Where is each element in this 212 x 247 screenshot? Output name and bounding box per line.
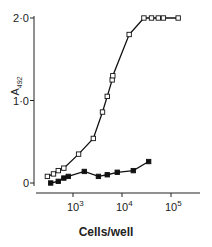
open-square-marker bbox=[105, 94, 109, 98]
y-tick-label: 0 bbox=[23, 177, 29, 189]
open-square-marker bbox=[62, 166, 66, 170]
open-square-marker bbox=[91, 136, 95, 140]
filled-square-marker bbox=[82, 169, 86, 173]
open-square-marker bbox=[142, 16, 146, 20]
y-axis-title: A492 bbox=[9, 76, 23, 95]
chart: 01·02·0103104105Cells/wellA492 bbox=[0, 0, 212, 247]
x-tick-label: 104 bbox=[116, 199, 133, 213]
filled-square-marker bbox=[48, 181, 52, 185]
filled-square-marker bbox=[105, 173, 109, 177]
filled-square-marker bbox=[56, 179, 60, 183]
y-tick-label: 2·0 bbox=[13, 12, 29, 24]
open-square-marker bbox=[149, 16, 153, 20]
x-tick-label: 105 bbox=[165, 199, 182, 213]
open-square-marker bbox=[127, 32, 131, 36]
open-square-marker bbox=[51, 172, 55, 176]
filled-square-marker bbox=[62, 176, 66, 180]
series-line bbox=[47, 18, 178, 176]
x-tick-label: 103 bbox=[67, 199, 84, 213]
open-square-marker bbox=[111, 74, 115, 78]
filled-square-marker bbox=[96, 174, 100, 178]
filled-square-marker bbox=[131, 168, 135, 172]
open-square-marker bbox=[45, 174, 49, 178]
filled-square-marker bbox=[146, 159, 150, 163]
open-square-marker bbox=[161, 16, 165, 20]
open-square-marker bbox=[156, 16, 160, 20]
open-square-marker bbox=[56, 168, 60, 172]
filled-square-marker bbox=[115, 170, 119, 174]
open-square-marker bbox=[76, 152, 80, 156]
filled-square-marker bbox=[66, 174, 70, 178]
open-square-marker bbox=[176, 16, 180, 20]
open-square-marker bbox=[100, 110, 104, 114]
x-axis-title: Cells/well bbox=[79, 225, 134, 239]
